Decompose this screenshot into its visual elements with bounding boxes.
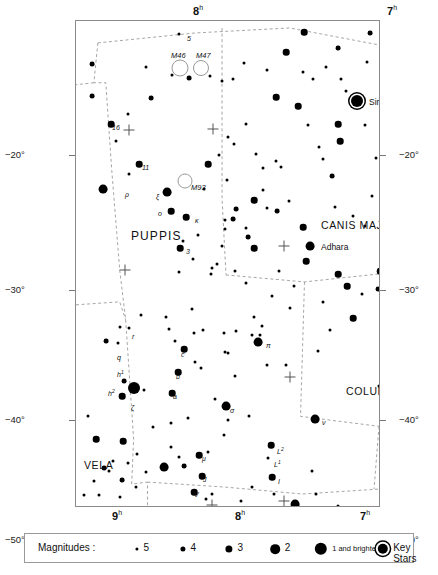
deep-sky-object-circle [172,60,189,77]
star-designation-label: σ [230,407,234,414]
star-dot [194,361,197,364]
dec-tick-mark-right [380,420,386,421]
star-dot [163,188,172,197]
star-dot [224,219,227,222]
star-designation-label: L1 [274,459,281,468]
dec-tick-label-left: −40° [5,414,25,425]
star-dot [210,273,213,276]
constellation-label: VELA [84,459,113,471]
star-dot [337,505,340,507]
star-dot [177,245,184,252]
star-dot [145,471,148,474]
deep-sky-object-circle [193,60,209,76]
star-designation-label: h1 [117,369,124,378]
dec-tick-label-right: −40° [399,414,419,425]
star-dot [152,426,155,429]
star-dot [127,462,130,465]
star-dot [334,206,337,209]
star-dot [211,267,214,270]
constellation-label: PUPPIS [131,229,182,243]
star-dot [170,446,173,449]
star-dot [269,474,276,481]
constellation-label: COLUMBA [346,385,379,397]
star-dot [291,500,300,506]
legend-title: Magnitudes : [38,542,95,553]
star-dot [273,94,280,101]
star-dot [182,464,187,469]
star-designation-label: c [181,351,185,358]
star-dot [234,375,237,378]
star-dot [376,287,379,292]
star-dot [119,326,122,329]
star-dot [234,207,239,212]
star-designation-label: o [158,210,162,217]
star-dot [87,415,90,418]
star-dot [193,332,196,335]
star-designation-label: L2 [277,446,284,455]
star-dot [329,329,332,332]
star-dot [178,456,181,459]
star-dot [187,417,190,420]
star-dot [307,124,310,127]
star-dot [251,197,258,204]
legend-magnitude-dot [180,546,185,551]
star-dot [251,245,258,252]
star-dot [104,339,109,344]
star-dot [178,271,181,274]
star-dot [259,334,262,337]
star-dot [289,307,292,310]
star-dot [335,271,342,278]
star-dot [261,325,264,328]
star-dot [120,478,125,483]
star-dot [235,330,238,333]
star-designation-label: b [176,373,180,380]
star-designation-label: π [266,342,271,349]
legend-item-label: 2 [285,542,291,553]
star-dot [266,207,269,210]
star-dot [301,29,308,36]
constellation-label: CANIS MAJOR [321,219,379,231]
star-dot [224,228,227,231]
dec-tick-label-right: −20° [399,149,419,160]
grid-cross-tick [285,372,296,383]
star-dot [174,340,177,343]
star-dot [168,328,171,331]
star-dot [267,457,270,460]
star-dot [368,31,373,36]
star-dot [221,80,224,83]
star-dot [227,419,230,422]
key-star [351,95,363,107]
star-designation-label: ζ [131,404,134,411]
star-dot [119,496,122,499]
star-dot [202,329,205,332]
star-designation-label: ν [322,419,326,426]
deep-sky-object-label: M47 [196,51,211,60]
star-dot [115,140,118,143]
star-dot [205,161,212,168]
star-dot [280,166,283,169]
ra-tick-label-top: 8h [193,4,203,17]
star-dot [337,138,344,145]
star-dot [127,113,130,116]
star-dot [128,173,131,176]
star-dot [325,66,328,69]
ra-tick-label-bottom: 7h [360,509,370,522]
star-dot [311,415,320,424]
dec-tick-label-right: −30° [399,284,419,295]
star-dot [200,367,203,370]
star-dot [240,500,243,503]
ra-tick-label-bottom: 8h [235,509,245,522]
grid-cross-tick [279,496,290,507]
star-dot [271,295,274,298]
star-dot [135,486,138,489]
star-designation-label: h2 [108,388,115,397]
ra-tick-label-top: 7h [387,4,397,17]
star-dot [211,493,214,496]
star-dot [371,195,374,198]
star-dot [128,327,131,330]
star-dot [149,96,154,101]
grid-cross-tick [207,500,218,507]
star-dot [377,268,379,275]
star-designation-label: 3 [186,248,190,255]
star-dot [275,209,280,214]
